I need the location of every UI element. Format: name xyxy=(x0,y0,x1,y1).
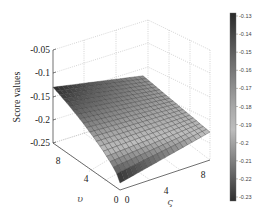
x-tick: 0 xyxy=(114,195,119,205)
x-tick: 8 xyxy=(56,156,61,166)
colorbar-tick: -0.15 xyxy=(239,49,252,55)
z-tick: -0.2 xyxy=(35,115,50,125)
colorbar-tick: -0.2 xyxy=(239,140,248,146)
colorbar-tick: -0.14 xyxy=(239,31,252,37)
y-tick: 0 xyxy=(125,195,130,205)
z-tick: -0.25 xyxy=(30,138,50,148)
x-axis-label: υ xyxy=(77,193,83,204)
z-tick: -0.15 xyxy=(30,92,50,102)
surface-plot: -0.05 -0.1 -0.15 -0.2 -0.25 Score values… xyxy=(0,0,257,212)
z-tick-marks xyxy=(53,49,56,143)
colorbar-tick: -0.16 xyxy=(239,67,252,73)
z-tick: -0.1 xyxy=(35,68,50,78)
z-axis-ticks: -0.05 -0.1 -0.15 -0.2 -0.25 xyxy=(30,45,50,148)
colorbar-tick: -0.23 xyxy=(239,194,252,200)
y-tick: 4 xyxy=(164,186,169,196)
x-tick: 4 xyxy=(84,174,89,184)
y-tick: 8 xyxy=(201,170,206,180)
colorbar-tick: -0.19 xyxy=(239,122,252,128)
z-axis-label: Score values xyxy=(11,71,22,122)
colorbar-tick: -0.17 xyxy=(239,85,252,91)
z-tick: -0.05 xyxy=(30,45,50,55)
colorbar-tick: -0.21 xyxy=(239,158,252,164)
colorbar-tick: -0.22 xyxy=(239,176,252,182)
score-surface xyxy=(53,76,210,183)
colorbar: -0.13-0.14-0.15-0.16-0.17-0.18-0.19-0.2-… xyxy=(230,13,252,201)
colorbar-tick: -0.13 xyxy=(239,13,252,19)
y-axis-label: ς xyxy=(167,196,173,207)
colorbar-tick: -0.18 xyxy=(239,104,252,110)
